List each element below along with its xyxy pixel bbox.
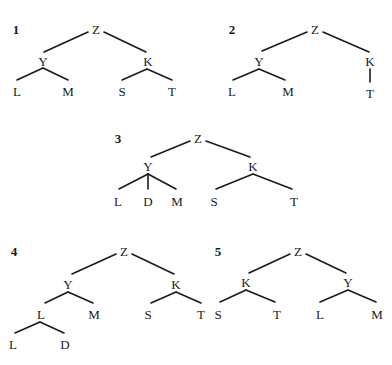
tree-2: 2ZYKLMT xyxy=(228,22,375,101)
tree-edge xyxy=(72,254,116,274)
tree-node-t: T xyxy=(366,86,374,101)
tree-node-k: K xyxy=(365,54,375,69)
tree-edge xyxy=(43,68,68,80)
tree-edge xyxy=(246,290,275,302)
tree-edge xyxy=(151,141,190,157)
tree-edge xyxy=(68,292,93,303)
tree-edge xyxy=(216,174,253,189)
tree-edge xyxy=(323,32,369,52)
tree-number-label: 1 xyxy=(13,22,20,37)
tree-node-m: M xyxy=(282,84,294,99)
tree-number-label: 4 xyxy=(11,244,18,259)
tree-node-m: M xyxy=(371,307,383,322)
tree-edge xyxy=(320,290,348,302)
tree-edge xyxy=(151,292,176,303)
trees-container: 1ZYKLMST2ZYKLMT3ZYKLDMST4ZYKLMSTLD5ZKYST… xyxy=(9,22,383,352)
tree-node-l: L xyxy=(9,337,17,352)
tree-node-y: Y xyxy=(143,159,153,174)
tree-node-z: Z xyxy=(194,131,202,146)
tree-node-y: Y xyxy=(343,275,353,290)
tree-edge xyxy=(262,32,307,51)
tree-edge xyxy=(44,32,88,52)
tree-edge xyxy=(40,322,64,333)
tree-3: 3ZYKLDMST xyxy=(114,131,298,209)
tree-node-k: K xyxy=(143,54,153,69)
tree-edge xyxy=(206,141,250,157)
tree-node-m: M xyxy=(62,84,74,99)
tree-node-t: T xyxy=(168,84,176,99)
tree-node-y: Y xyxy=(254,54,264,69)
tree-node-z: Z xyxy=(92,22,100,37)
tree-node-s: S xyxy=(118,84,125,99)
tree-node-t: T xyxy=(290,194,298,209)
tree-edge xyxy=(253,174,292,189)
tree-node-d: D xyxy=(60,337,69,352)
tree-node-z: Z xyxy=(294,244,302,259)
tree-node-z: Z xyxy=(120,244,128,259)
tree-edge xyxy=(119,174,148,189)
tree-number-label: 3 xyxy=(115,131,122,146)
tree-1: 1ZYKLMST xyxy=(13,22,176,99)
tree-edge xyxy=(122,69,147,80)
tree-node-s: S xyxy=(214,307,221,322)
tree-node-m: M xyxy=(88,307,100,322)
tree-node-s: S xyxy=(144,307,151,322)
tree-node-z: Z xyxy=(311,22,319,37)
tree-number-label: 5 xyxy=(215,244,222,259)
tree-edge xyxy=(176,292,201,303)
tree-node-l: L xyxy=(228,84,236,99)
tree-edge xyxy=(249,254,290,273)
tree-edge xyxy=(259,69,285,80)
tree-node-m: M xyxy=(171,194,183,209)
tree-edge xyxy=(45,292,68,303)
tree-node-k: K xyxy=(171,277,181,292)
tree-node-k: K xyxy=(248,159,258,174)
tree-node-l: L xyxy=(37,307,45,322)
tree-edge xyxy=(147,69,172,80)
tree-node-l: L xyxy=(114,194,122,209)
tree-node-y: Y xyxy=(63,277,73,292)
tree-node-k: K xyxy=(241,275,251,290)
tree-edge xyxy=(148,174,176,189)
tree-node-d: D xyxy=(143,194,152,209)
tree-edge xyxy=(132,254,174,274)
tree-5: 5ZKYSTLM xyxy=(214,244,383,322)
tree-edge xyxy=(233,69,259,80)
tree-node-t: T xyxy=(197,307,205,322)
tree-edge xyxy=(104,32,146,52)
tree-edge xyxy=(306,254,346,273)
tree-number-label: 2 xyxy=(229,22,236,37)
tree-edge xyxy=(17,68,43,80)
tree-edge xyxy=(348,290,376,302)
tree-node-s: S xyxy=(210,194,217,209)
tree-node-y: Y xyxy=(38,54,48,69)
tree-node-l: L xyxy=(316,307,324,322)
tree-edge xyxy=(220,290,246,302)
tree-node-t: T xyxy=(273,307,281,322)
tree-4: 4ZYKLMSTLD xyxy=(9,244,205,352)
tree-node-l: L xyxy=(13,84,21,99)
tree-edge xyxy=(15,322,40,333)
tree-diagrams-figure: 1ZYKLMST2ZYKLMT3ZYKLDMST4ZYKLMSTLD5ZKYST… xyxy=(0,0,392,365)
